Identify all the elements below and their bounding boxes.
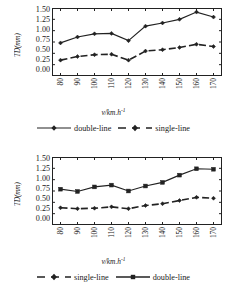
y-tick-label: 1.00 [36,175,50,183]
x-tick-label: 130 [142,78,149,89]
x-axis-title-text: v/km.h [102,108,122,117]
data-point-marker [161,48,165,52]
data-point-marker [195,42,199,46]
x-axis-title-top: v/km.h-1 [0,107,227,117]
y-tick-label: 0.25 [36,56,50,64]
plot-area-bottom [52,157,222,225]
x-tick-label: 150 [176,78,183,89]
x-tick-label: 90 [74,78,81,85]
data-point-marker [93,185,97,189]
data-point-marker [76,190,80,194]
x-tick-label: 110 [108,78,115,89]
legend-swatch-solid-square-icon [116,272,150,282]
data-point-marker [127,207,131,211]
data-point-marker [59,206,63,210]
data-point-marker [144,184,148,188]
legend-label: double-line [74,124,111,133]
y-tick-label: 1.25 [36,16,50,24]
legend-swatch-solid-diamond-icon [37,123,71,133]
y-tick-label: 1.00 [36,26,50,34]
x-tick-label: 120 [125,227,132,238]
y-tick-label: 1.50 [36,6,50,14]
x-tick-label: 100 [91,78,98,89]
series-line-double-line [61,169,214,192]
figure-top: TD(mm) 1.50 1.25 1.00 0.75 0.50 0.25 0.0… [0,0,227,146]
data-point-marker [178,199,182,203]
data-point-marker [76,55,80,59]
data-point-marker [59,187,63,191]
data-point-marker [178,17,182,21]
x-axis-title-exponent: -1 [121,256,126,262]
legend-item-double-line: double-line [116,272,190,282]
x-tick-label: 150 [176,227,183,238]
data-point-marker [93,32,97,36]
data-point-marker [178,173,182,177]
series-line-double-line [61,12,214,43]
legend-top: double-line single-line [0,123,227,133]
data-point-marker [127,58,131,62]
y-tick-label: 0.50 [36,46,50,54]
legend-item-double-line: double-line [37,123,111,133]
data-point-marker [93,206,97,210]
y-axis-ticks-top: 1.50 1.25 1.00 0.75 0.50 0.25 0.00 [22,0,50,86]
data-point-marker [110,52,114,56]
x-axis-title-exponent: -1 [121,107,126,113]
figure-page: TD(mm) 1.50 1.25 1.00 0.75 0.50 0.25 0.0… [0,0,227,297]
x-axis-ticks-top: 80 90 100 110 120 130 140 150 160 170 [52,78,222,108]
y-tick-label: 0.00 [36,215,50,223]
x-tick-label: 100 [91,227,98,238]
legend-item-single-line: single-line [118,123,190,133]
data-point-marker [59,58,63,62]
x-tick-label: 80 [57,227,64,234]
legend-label: single-line [74,273,109,282]
x-tick-label: 170 [210,78,217,89]
data-point-marker [161,180,165,184]
data-point-marker [195,167,199,171]
y-tick-label: 0.75 [36,36,50,44]
x-tick-label: 110 [108,227,115,238]
y-tick-label: 0.00 [36,66,50,74]
data-point-marker [93,53,97,57]
x-tick-label: 120 [125,78,132,89]
x-axis-title-text: v/km.h [102,257,122,266]
x-tick-label: 160 [193,227,200,238]
legend-swatch-dashed-diamond-icon [37,272,71,282]
data-point-marker [212,196,216,200]
data-point-marker [110,183,114,187]
data-point-marker [110,205,114,209]
data-point-marker [212,15,216,19]
plot-area-top [52,8,222,76]
x-tick-label: 170 [210,227,217,238]
series-markers-double-line [59,10,216,45]
x-axis-title-bottom: v/km.h-1 [0,256,227,266]
y-tick-label: 0.25 [36,205,50,213]
data-point-marker [195,10,199,14]
legend-label: double-line [153,273,190,282]
x-tick-label: 160 [193,78,200,89]
data-point-marker [161,202,165,206]
data-point-marker [212,167,216,171]
y-axis-ticks-bottom: 1.50 1.25 1.00 0.75 0.50 0.25 0.00 [22,149,50,235]
y-tick-label: 0.50 [36,195,50,203]
x-axis-ticks-bottom: 80 90 100 110 120 130 140 150 160 170 [52,227,222,257]
data-point-marker [76,207,80,211]
legend-bottom: single-line double-line [0,272,227,282]
data-point-marker [178,45,182,49]
x-tick-label: 130 [142,227,149,238]
series-line-single-line [61,44,214,60]
y-tick-label: 1.50 [36,155,50,163]
x-tick-label: 80 [57,78,64,85]
data-point-marker [195,195,199,199]
series-line-single-line [61,197,214,208]
data-point-marker [127,189,131,193]
x-tick-label: 140 [159,227,166,238]
data-point-marker [161,21,165,25]
x-tick-label: 90 [74,227,81,234]
data-point-marker [59,41,63,45]
data-point-marker [76,35,80,39]
x-tick-label: 140 [159,78,166,89]
y-tick-label: 1.25 [36,165,50,173]
data-point-marker [212,45,216,49]
legend-swatch-dashed-diamond-icon [118,123,152,133]
y-tick-label: 0.75 [36,185,50,193]
